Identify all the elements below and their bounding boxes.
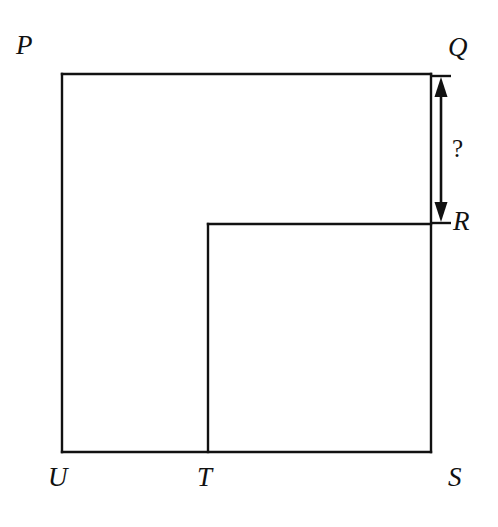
polygon-outline [62,74,431,452]
unknown-length-label: ? [452,136,463,161]
arrowhead-up-icon [435,77,448,97]
dimension-QR [431,76,451,223]
vertex-label-u: U [48,464,68,491]
figure-svg [0,0,498,527]
geometry-figure: P Q R S T U ? [0,0,498,527]
vertex-label-r: R [453,208,470,235]
vertex-label-q: Q [448,34,468,61]
vertex-label-t: T [197,464,212,491]
arrowhead-down-icon [435,202,448,222]
vertex-label-s: S [448,464,462,491]
vertex-label-p: P [16,32,33,59]
